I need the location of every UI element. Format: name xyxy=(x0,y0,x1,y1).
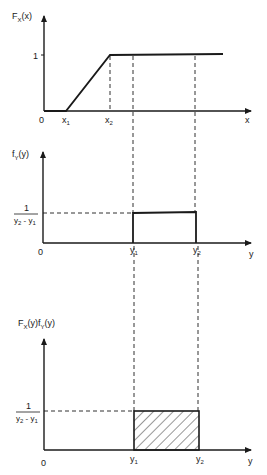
level-denominator: y2 - y1 xyxy=(16,414,38,424)
ylabel-pdf: fY(y) xyxy=(12,149,29,161)
origin-label: 0 xyxy=(38,247,43,257)
panel-product: FX(y)fY(y) 1 y2 - y1 0 y1 y2 y xyxy=(16,318,253,468)
shaded-region xyxy=(134,411,199,450)
x2-label: x2 xyxy=(105,115,114,126)
pdf-rect xyxy=(133,212,196,243)
cdf-curve xyxy=(44,54,223,111)
xlabel-y: y xyxy=(248,456,253,466)
guide-lines xyxy=(133,56,198,411)
level-denominator: y2 - y1 xyxy=(14,216,36,226)
origin-label: 0 xyxy=(41,458,46,468)
level-numerator: 1 xyxy=(24,203,29,213)
origin-label: 0 xyxy=(39,115,44,125)
y2-label: y2 xyxy=(193,245,202,256)
panel-cdf: FX(x) 1 0 x1 x2 x xyxy=(12,11,251,126)
y2-label: y2 xyxy=(196,454,205,465)
x1-label: x1 xyxy=(62,115,71,126)
xlabel-y: y xyxy=(249,249,254,259)
level-numerator: 1 xyxy=(26,401,31,411)
tick-label-one: 1 xyxy=(33,51,38,61)
ylabel-product: FX(y)fY(y) xyxy=(18,318,55,330)
y1-label: y1 xyxy=(130,245,139,256)
ylabel-cdf: FX(x) xyxy=(12,11,32,23)
xlabel-x: x xyxy=(245,115,250,125)
y1-label: y1 xyxy=(130,454,139,465)
figure-canvas: FX(x) 1 0 x1 x2 x fY(y) 1 y2 - y1 0 y1 y… xyxy=(0,0,267,475)
